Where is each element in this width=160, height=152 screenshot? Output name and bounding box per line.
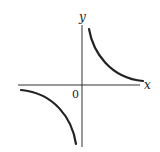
y-axis-label: y [78, 10, 86, 24]
hyperbola-diagram: y x 0 [0, 0, 160, 152]
origin-label: 0 [72, 88, 79, 101]
curve-branch-quadrant-1 [89, 29, 143, 81]
curve-branch-quadrant-3 [21, 90, 76, 144]
x-axis-label: x [144, 78, 151, 92]
